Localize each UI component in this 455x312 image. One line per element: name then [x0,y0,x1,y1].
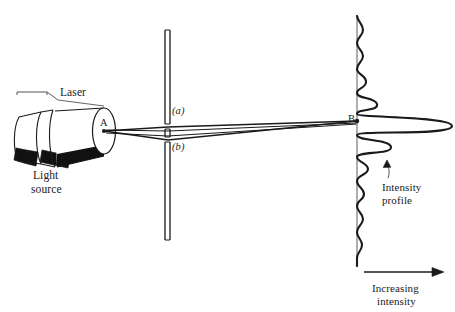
increasing-intensity-label-line1: Increasing [372,282,419,294]
light-source-assembly [14,92,116,168]
light-source-label-line1: Light [33,169,58,182]
laser-label-leader [47,92,58,100]
figure-canvas [0,0,455,312]
intensity-profile-annotation [383,160,391,178]
light-source-label-line2: source [31,183,62,196]
point-b-label: B [348,113,355,125]
point-a-label: A [100,117,108,129]
intensity-profile-leader-arrowhead [383,160,391,168]
physics-figure-double-slit: Laser A B (a) (b) Light source Intensity… [0,0,455,312]
slit-a-label: (a) [172,105,185,117]
intensity-profile-curve [357,16,452,266]
laser-label: Laser [60,86,86,99]
ray-inner-upper [106,123,357,131]
double-slit-barrier [165,30,170,240]
slit-b-label: (b) [172,141,185,153]
point-b-marker [355,119,359,123]
increasing-intensity-label-line2: intensity [377,295,416,307]
intensity-profile-label-line2: profile [382,194,412,206]
laser-label-underline [58,100,104,106]
laser-rear-collar-link-top [19,112,41,117]
intensity-profile-label-line1: Intensity [382,181,421,193]
intensity-curve-path [357,16,452,266]
increasing-intensity-arrowhead [432,268,444,277]
laser-label-bracket [17,92,47,95]
increasing-intensity-arrow [364,268,444,277]
light-rays [104,121,357,140]
laser-mid-collar-link-top [41,110,53,112]
